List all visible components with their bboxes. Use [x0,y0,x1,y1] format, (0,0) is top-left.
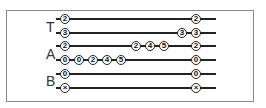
node-circle: 0 [191,55,201,65]
node-circle: 2 [131,41,141,51]
group-label: B [46,74,55,88]
node-circle: × [60,83,70,93]
node-circle: 0 [74,55,84,65]
node-circle: 3 [60,28,70,38]
node-circle: 4 [102,55,112,65]
node-circle: 4 [145,41,155,51]
node-circle: × [191,83,201,93]
node-circle: 3 [191,28,201,38]
node-circle: 2 [191,14,201,24]
node-circle: 0 [60,55,70,65]
node-circle: 5 [116,55,126,65]
node-circle: 2 [60,14,70,24]
node-circle: 0 [60,69,70,79]
node-circle: 5 [159,41,169,51]
node-circle: 0 [191,69,201,79]
node-circle: 3 [177,28,187,38]
node-circle: 2 [60,41,70,51]
node-circle: 2 [191,41,201,51]
node-circle: 2 [88,55,98,65]
group-label: T [46,20,55,34]
group-label: A [46,47,55,61]
